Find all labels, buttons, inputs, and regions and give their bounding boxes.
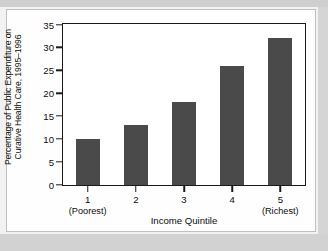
bar-slot (160, 25, 208, 185)
x-axis-tick-label-value: 1 (85, 194, 90, 205)
bar-slot (112, 25, 160, 185)
x-axis-tick-mark (135, 186, 137, 192)
bar-chart: Percentage of Public Expenditure on Cura… (7, 10, 315, 231)
y-axis-tick-label: 20 (28, 88, 54, 99)
bar-slot (256, 25, 304, 185)
scan-band-top (0, 0, 328, 7)
figure-page: Percentage of Public Expenditure on Cura… (0, 0, 328, 251)
x-axis-tick-mark (231, 186, 233, 192)
scan-band-bottom (0, 234, 328, 251)
x-axis-tick-mark (87, 186, 89, 192)
bar (220, 66, 244, 185)
y-axis-title-line1: Percentage of Public Expenditure on (3, 29, 13, 165)
bar-slot (208, 25, 256, 185)
y-axis-tick-label: 15 (28, 111, 54, 122)
x-axis-tick-label-value: 4 (229, 194, 234, 205)
bar (124, 125, 148, 184)
bar (172, 102, 196, 184)
y-axis-tick-label: 35 (28, 19, 54, 30)
bar (268, 38, 292, 184)
y-axis-tick-label: 10 (28, 133, 54, 144)
bar (76, 139, 100, 185)
x-axis-tick-mark (183, 186, 185, 192)
x-axis-tick-label-value: 5 (278, 194, 283, 205)
y-axis-tick-label: 0 (28, 179, 54, 190)
x-axis-tick-label: 5(Richest) (245, 194, 315, 217)
bar-slot (64, 25, 112, 185)
bar-series (64, 25, 305, 185)
y-axis-tick-label: 30 (28, 42, 54, 53)
x-axis-tick-mark (280, 186, 282, 192)
scan-band-right (318, 7, 328, 234)
y-axis-tick-label: 25 (28, 65, 54, 76)
x-axis-tick-label-value: 2 (133, 194, 138, 205)
chart-card: Percentage of Public Expenditure on Cura… (6, 9, 316, 232)
y-axis-tick-label: 5 (28, 156, 54, 167)
x-axis-tick-label-value: 3 (181, 194, 186, 205)
x-axis-title: Income Quintile (62, 215, 306, 226)
y-axis-title-line2: Curative Health Care, 1995–1996 (13, 15, 23, 180)
